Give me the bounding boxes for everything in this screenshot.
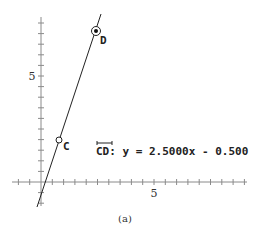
y-tick-label-5: 5 [29,70,36,83]
x-axis [12,179,247,185]
equation-text: : y = 2.5000x - 0.500 [109,145,248,158]
svg-text:CD: y = 2.5000x - 0.500: CD: y = 2.5000x - 0.500 [96,145,248,158]
equation-line-name: CD [96,145,110,158]
point-c-label: C [63,140,70,153]
figure: 5 5 C D CD: y = 2.5000x - 0.500 [0,0,255,237]
figure-caption: (a) [118,213,132,224]
point-d-label: D [100,34,107,47]
x-tick-label-5: 5 [151,187,158,200]
open-circle-icon [56,137,62,143]
y-axis [38,17,44,206]
equation-label: CD: y = 2.5000x - 0.500 [96,141,248,158]
line-cd [37,14,101,207]
